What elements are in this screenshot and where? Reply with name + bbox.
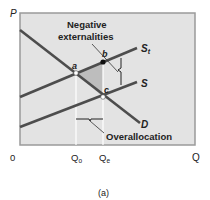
point-b [100,59,105,64]
point-c-label: c [104,85,109,95]
x-axis-label: Q [192,152,200,163]
point-a [74,71,79,76]
origin-label: 0 [10,152,15,163]
negative-externalities-label-line2: externalities [58,31,113,42]
negative-externalities-label-line1: Negative [67,19,107,30]
y-axis-label: P [10,8,17,19]
s-curve-label: S [141,78,148,89]
d-curve-label: D [141,119,148,130]
qe-tick-label: Qe [99,152,110,164]
figure-caption: (a) [98,188,109,198]
point-c [101,95,106,100]
qo-tick-label: Qo [71,152,82,164]
overallocation-label: Overallocation [106,131,172,142]
externality-diagram: a b c St S D Negative externalities Over… [0,0,210,200]
point-a-label: a [72,61,77,71]
